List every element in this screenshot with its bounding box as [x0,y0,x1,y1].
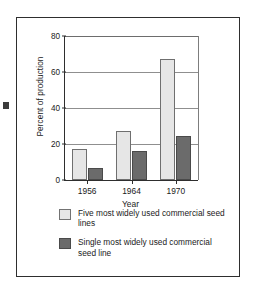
legend: Five most widely used commercial seed li… [59,208,239,267]
bar [72,149,87,181]
x-tick-mark [176,180,177,184]
x-tick-mark [87,180,88,184]
bar-chart: Percent of production 020406080 19561964… [17,18,241,278]
y-tick-label: 60 [51,68,60,77]
y-tick-label: 20 [51,140,60,149]
chart-frame: Percent of production 020406080 19561964… [16,17,240,277]
figure-root: Percent of production 020406080 19561964… [0,0,254,290]
x-tick-label: 1956 [78,186,97,196]
bar [160,59,175,180]
plot-area: 020406080 195619641970 [64,36,198,181]
y-tick-label: 80 [51,32,60,41]
bar [176,136,191,180]
plot-right-edge [198,36,199,180]
x-tick-label: 1964 [122,186,141,196]
legend-item-single-line: Single most widely used commercial seed … [59,237,239,257]
bar [116,131,131,181]
scan-artifact-mark [3,102,9,109]
x-tick-label: 1970 [167,186,186,196]
bar [132,151,147,180]
y-tick-label: 40 [51,104,60,113]
bars-layer [65,36,198,180]
x-tick-mark [132,180,133,184]
legend-item-five-lines: Five most widely used commercial seed li… [59,208,239,228]
y-tick-label: 0 [55,176,60,185]
dark-gray-swatch-icon [59,238,71,249]
legend-item-label: Single most widely used commercial seed … [78,237,230,257]
bar [88,168,103,180]
light-gray-swatch-icon [59,209,71,220]
legend-item-label: Five most widely used commercial seed li… [78,208,230,228]
y-axis-label: Percent of production [36,32,45,162]
